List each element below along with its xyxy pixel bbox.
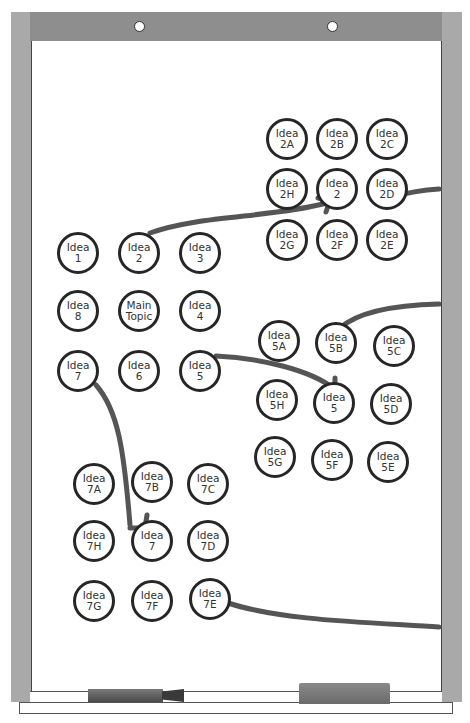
node-sublabel: 2B [330,139,344,150]
node-sublabel: 7C [201,484,215,495]
node-idea-7-center: Idea7 [131,520,173,562]
node-idea-4: Idea4 [179,290,221,332]
node-sublabel: 5F [326,460,339,471]
node-idea-7g: Idea7G [73,580,115,622]
node-sublabel: 7 [75,371,82,382]
node-sublabel: 7D [201,541,216,552]
node-idea-5a: Idea5A [258,320,300,362]
node-idea-2: Idea2 [118,232,160,274]
node-idea-2e: Idea2E [366,219,408,261]
node-idea-2b: Idea2B [316,118,358,160]
node-sublabel: 2E [380,240,393,251]
node-sublabel: 4 [197,311,204,322]
node-sublabel: 7H [87,541,102,552]
node-idea-1: Idea1 [57,232,99,274]
node-idea-5e: Idea5E [367,441,409,483]
node-idea-7h: Idea7H [73,520,115,562]
node-sublabel: 5D [384,404,399,415]
node-sublabel: 5 [331,403,338,414]
node-idea-7c: Idea7C [187,463,229,505]
node-idea-7e: Idea7E [189,578,231,620]
node-sublabel: 1 [75,253,82,264]
node-sublabel: 5B [329,343,343,354]
node-idea-2-center: Idea2 [316,168,358,210]
node-idea-2d: Idea2D [366,168,408,210]
arrow-idea7-to-grid7 [96,385,130,525]
node-sublabel: 7A [87,484,101,495]
node-idea-5-center: Idea5 [313,382,355,424]
node-idea-2c: Idea2C [366,118,408,160]
node-idea-2h: Idea2H [266,168,308,210]
node-sublabel: 2D [380,189,395,200]
node-idea-8: Idea8 [57,290,99,332]
node-idea-5b: Idea5B [315,322,357,364]
node-idea-5d: Idea5D [370,383,412,425]
node-idea-7d: Idea7D [187,520,229,562]
node-sublabel: 2H [280,189,295,200]
node-sublabel: 6 [136,371,143,382]
node-idea-7: Idea7 [57,350,99,392]
node-sublabel: 3 [197,253,204,264]
node-idea-5h: Idea5H [256,379,298,421]
node-idea-2f: Idea2F [316,219,358,261]
node-idea-5g: Idea5G [254,436,296,478]
node-sublabel: 2 [334,189,341,200]
node-sublabel: 2 [136,253,143,264]
node-sublabel: 2F [331,240,344,251]
node-sublabel: 5G [268,457,283,468]
node-idea-3: Idea3 [179,232,221,274]
node-idea-2g: Idea2G [266,219,308,261]
node-sublabel: 8 [75,311,82,322]
node-sublabel: Topic [126,311,152,322]
node-idea-7a: Idea7A [73,463,115,505]
node-idea-5c: Idea5C [373,325,415,367]
node-sublabel: 7B [145,482,159,493]
node-sublabel: 2C [380,139,394,150]
node-sublabel: 7E [203,599,216,610]
node-idea-7b: Idea7B [131,461,173,503]
node-sublabel: 5E [381,462,394,473]
node-idea-7f: Idea7F [131,580,173,622]
node-sublabel: 2A [280,139,294,150]
node-sublabel: 5H [270,400,285,411]
node-sublabel: 7 [149,541,156,552]
node-main-topic: MainTopic [118,290,160,332]
node-sublabel: 5 [197,371,204,382]
arrow-7e-offboard [228,603,439,627]
node-sublabel: 2G [280,240,295,251]
node-sublabel: 7G [87,601,102,612]
node-idea-6: Idea6 [118,350,160,392]
node-sublabel: 5A [272,341,286,352]
node-idea-5: Idea5 [179,350,221,392]
node-idea-5f: Idea5F [311,439,353,481]
node-idea-2a: Idea2A [266,118,308,160]
node-sublabel: 5C [387,346,401,357]
node-sublabel: 7F [146,601,159,612]
